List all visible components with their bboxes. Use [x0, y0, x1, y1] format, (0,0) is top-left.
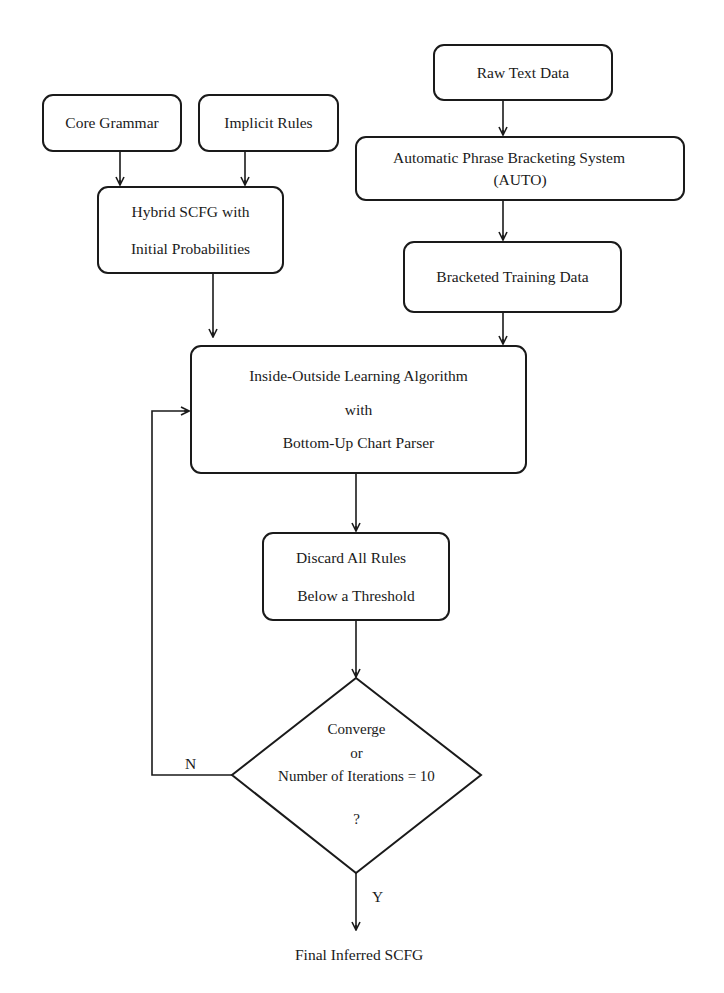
node-core-grammar: Core Grammar — [42, 94, 182, 152]
node-inside-outside-algorithm: Inside-Outside Learning Algorithm with B… — [190, 345, 527, 474]
node-label-line1: Automatic Phrase Bracketing System — [393, 150, 625, 166]
node-label-line1: Discard All Rules — [296, 550, 406, 566]
decision-label-line3: Number of Iterations = 10 — [232, 769, 481, 784]
node-label: Raw Text Data — [477, 65, 569, 81]
node-label-line3: Bottom-Up Chart Parser — [283, 435, 435, 451]
node-label-line1: Inside-Outside Learning Algorithm — [249, 368, 468, 384]
node-auto-system: Automatic Phrase Bracketing System (AUTO… — [355, 136, 685, 201]
node-label: Implicit Rules — [224, 115, 312, 131]
node-label-line2: Initial Probabilities — [131, 241, 250, 257]
node-label: Bracketed Training Data — [436, 269, 588, 285]
node-hybrid-scfg: Hybrid SCFG with Initial Probabilities — [97, 186, 284, 274]
edge-label-yes: Y — [372, 889, 383, 905]
node-label-line2: Below a Threshold — [297, 588, 415, 604]
edge-label-no: N — [185, 756, 196, 772]
decision-label-line2: or — [232, 746, 481, 761]
node-implicit-rules: Implicit Rules — [198, 94, 339, 152]
decision-label-line1: Converge — [232, 722, 481, 737]
node-label-line2: with — [345, 402, 373, 418]
node-raw-text-data: Raw Text Data — [433, 44, 613, 101]
decision-label-line4: ? — [232, 812, 481, 827]
node-discard-rules: Discard All Rules Below a Threshold — [262, 532, 450, 621]
node-bracketed-training-data: Bracketed Training Data — [403, 241, 622, 313]
node-label-line2: (AUTO) — [493, 172, 546, 188]
node-label: Core Grammar — [65, 115, 158, 131]
final-output-label: Final Inferred SCFG — [295, 947, 423, 963]
node-label-line1: Hybrid SCFG with — [132, 204, 250, 220]
